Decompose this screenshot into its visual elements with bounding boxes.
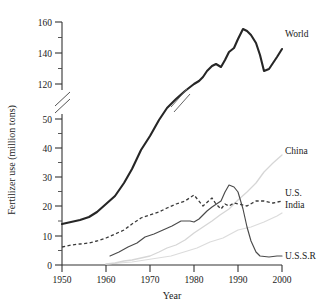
series-line-china	[106, 155, 282, 264]
y-axis-title: Fertilizer use (million tons)	[6, 105, 18, 215]
series-label-china: China	[285, 146, 308, 156]
y-axis-label-20: 20	[43, 202, 53, 212]
x-axis-label-1970: 1970	[141, 275, 160, 285]
x-axis-label-2000: 2000	[273, 275, 292, 285]
series-label-us: U.S.	[285, 188, 302, 198]
x-axis-label-1960: 1960	[97, 275, 116, 285]
y-axis-label-10: 10	[43, 232, 53, 242]
y-axis-break-marker	[55, 90, 70, 114]
y-axis-label-30: 30	[43, 173, 53, 183]
series-line-world	[62, 29, 282, 224]
y-axis-tick-labels: 160 140 120 50 40 30 20 10 0	[38, 18, 53, 271]
fertilizer-use-line-chart: 160 140 120 50 40 30 20 10 0 1950 1960 1…	[0, 0, 327, 304]
series-labels: World China U.S. India U.S.S.R	[285, 29, 317, 261]
series-line-us	[62, 195, 282, 247]
x-axis-label-1990: 1990	[229, 275, 248, 285]
y-axis-label-160: 160	[38, 18, 53, 28]
y-axis-label-120: 120	[38, 80, 53, 90]
series-label-world: World	[285, 29, 309, 39]
x-axis-ticks	[62, 265, 282, 272]
axis-lines	[62, 22, 282, 265]
y-axis-label-50: 50	[43, 115, 53, 125]
y-axis-label-40: 40	[43, 144, 53, 154]
y-axis-label-140: 140	[38, 49, 53, 59]
chart-svg: 160 140 120 50 40 30 20 10 0 1950 1960 1…	[0, 0, 327, 304]
y-axis-minor-ticks	[58, 38, 62, 251]
y-axis-major-ticks	[55, 22, 62, 265]
x-axis-label-1950: 1950	[53, 275, 72, 285]
series-line-india	[106, 213, 282, 264]
x-axis-label-1980: 1980	[185, 275, 204, 285]
series-label-india: India	[285, 200, 305, 210]
x-axis-title: Year	[163, 290, 182, 301]
curve-break-slash-upper	[174, 94, 190, 112]
series-label-ussr: U.S.S.R	[285, 251, 317, 261]
y-axis-label-0: 0	[47, 261, 52, 271]
curve-break-slash-lower	[171, 89, 187, 107]
x-axis-tick-labels: 1950 1960 1970 1980 1990 2000	[53, 275, 292, 285]
